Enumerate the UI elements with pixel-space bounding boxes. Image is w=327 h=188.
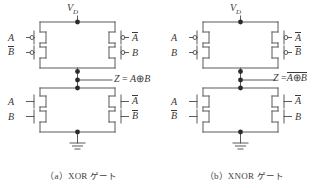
nmos-input-label-top-right: A (295, 95, 301, 107)
pmos-input-label-bottom-right: B (132, 47, 138, 58)
pmos-tr-bubble (284, 36, 288, 40)
pmos-input-label-top-left: A (171, 32, 177, 43)
panel-caption-xor: （a）XOR ゲート (0, 169, 163, 182)
nmos-input-label-top-right: A (132, 95, 138, 107)
output-dot-middle (238, 78, 243, 83)
nmos-input-label-bottom-left: B (8, 111, 14, 122)
panel-xnor-gate: VD (163, 0, 326, 188)
output-dot-middle (75, 78, 80, 83)
output-dot-upper (75, 69, 80, 74)
pmos-bl-bubble (30, 51, 34, 55)
ground-junction-dot (75, 130, 80, 135)
pmos-bl-bubble (193, 51, 197, 55)
output-overbar: A⊕B (287, 72, 307, 84)
pmos-br-bubble (284, 51, 288, 55)
nmos-input-label-bottom-right: B (295, 111, 301, 122)
pmos-br-bubble (121, 51, 125, 55)
nmos-input-label-top-left: A (8, 96, 14, 107)
supply-label-vd: VD (67, 2, 78, 16)
cmos-xor-xnor-figure: VD (0, 0, 327, 188)
pmos-input-label-bottom-left: B (8, 46, 14, 58)
output-dot-lower (75, 86, 80, 91)
vd-junction-dot (238, 20, 243, 25)
pmos-tl-bubble (193, 36, 197, 40)
nmos-input-label-top-left: A (171, 96, 177, 107)
pmos-input-label-bottom-right: B (295, 46, 301, 58)
pmos-tl-bubble (30, 36, 34, 40)
nmos-input-label-bottom-left: B (171, 110, 177, 122)
pmos-input-label-top-right: A (132, 32, 138, 44)
output-dot-lower (238, 86, 243, 91)
pmos-input-label-bottom-left: B (171, 47, 177, 58)
panel-xor-gate: VD (0, 0, 163, 188)
supply-label-vd: VD (230, 2, 241, 16)
output-equation: Z = A⊕B (114, 73, 150, 84)
vd-junction-dot (75, 20, 80, 25)
pmos-input-label-top-left: A (8, 32, 14, 43)
nmos-input-label-bottom-right: B (132, 110, 138, 122)
pmos-tr-bubble (121, 36, 125, 40)
output-equation: Z =A⊕B (273, 72, 307, 84)
output-dot-upper (238, 69, 243, 74)
ground-junction-dot (238, 130, 243, 135)
pmos-input-label-top-right: A (295, 32, 301, 44)
panel-caption-xnor: （b）XNOR ゲート (163, 169, 326, 182)
